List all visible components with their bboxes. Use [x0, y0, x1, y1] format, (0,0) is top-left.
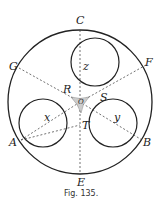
label-S: S [100, 91, 108, 104]
label-y: y [113, 111, 121, 124]
label-E: E [76, 176, 85, 189]
label-O: O [78, 98, 84, 106]
geometry-figure: C G F R S O A B T E z x y Fig. 135. [0, 0, 159, 210]
circle-x [19, 99, 67, 147]
label-C: C [76, 14, 85, 27]
label-F: F [144, 56, 153, 69]
label-B: B [142, 136, 151, 149]
circle-y [89, 99, 137, 147]
figure-caption: Fig. 135. [64, 189, 98, 198]
label-R: R [62, 83, 71, 96]
label-G: G [9, 60, 18, 73]
label-z: z [82, 60, 89, 73]
label-x: x [44, 111, 51, 124]
figure-canvas: C G F R S O A B T E z x y Fig. 135. [0, 0, 159, 210]
label-A: A [8, 136, 17, 149]
circle-z [71, 38, 119, 86]
